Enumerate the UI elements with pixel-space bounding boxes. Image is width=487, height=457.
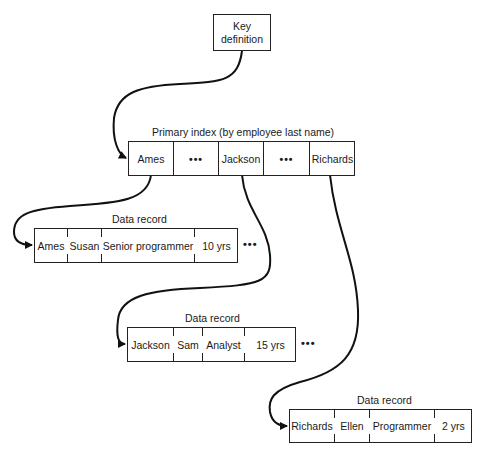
index-cell-ellipsis-2: •••	[263, 142, 309, 175]
record-field-tenure: 2 yrs	[434, 410, 472, 442]
index-cell-richards: Richards	[309, 142, 355, 175]
record-field-first-name: Ellen	[334, 410, 369, 442]
record-field-first-name: Susan	[67, 229, 101, 262]
record-field-tenure: 10 yrs	[194, 229, 238, 262]
jackson-data-record: Jackson Sam Analyst 15 yrs	[127, 327, 296, 362]
record-field-title: Senior programmer	[101, 229, 194, 262]
record-field-tenure: 15 yrs	[244, 328, 296, 361]
ames-record-ellipsis: •••	[243, 238, 258, 250]
jackson-record-ellipsis: •••	[301, 337, 316, 349]
richards-record-title: Data record	[357, 394, 412, 406]
index-cell-ames: Ames	[129, 142, 173, 175]
ames-data-record: Ames Susan Senior programmer 10 yrs	[34, 228, 238, 263]
jackson-record-title: Data record	[185, 312, 240, 324]
record-field-last-name: Richards	[290, 410, 334, 442]
ames-record-title: Data record	[112, 213, 167, 225]
record-field-last-name: Ames	[35, 229, 67, 262]
record-field-first-name: Sam	[173, 328, 202, 361]
record-field-title: Analyst	[202, 328, 244, 361]
key-definition-line1: Key	[221, 20, 263, 33]
primary-index-title: Primary index (by employee last name)	[152, 126, 334, 138]
index-cell-jackson: Jackson	[218, 142, 263, 175]
key-definition-line2: definition	[221, 33, 263, 46]
richards-pointer-arrow	[270, 175, 359, 426]
richards-data-record: Richards Ellen Programmer 2 yrs	[289, 409, 472, 443]
index-cell-ellipsis-1: •••	[173, 142, 218, 175]
record-field-title: Programmer	[369, 410, 434, 442]
primary-index-box: Ames ••• Jackson ••• Richards	[128, 141, 355, 176]
record-field-last-name: Jackson	[128, 328, 173, 361]
key-definition-box: Key definition	[213, 14, 271, 51]
